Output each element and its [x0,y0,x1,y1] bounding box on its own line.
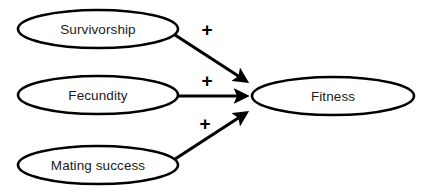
edge-sign-group: + + + [199,19,212,134]
path-diagram-canvas: + + + Survivorship Fecundity Mating succ… [0,0,430,192]
node-mating-success-label: Mating success [51,158,146,173]
node-fecundity-label: Fecundity [68,88,128,103]
node-fitness[interactable]: Fitness [252,77,414,115]
edge-sign-fecundity: + [201,70,212,91]
node-mating-success[interactable]: Mating success [18,146,178,184]
node-survivorship[interactable]: Survivorship [18,10,178,48]
node-survivorship-label: Survivorship [60,22,135,37]
edge-group [172,33,246,161]
path-diagram-svg: + + + Survivorship Fecundity Mating succ… [0,0,430,192]
edge-sign-survivorship: + [201,19,212,40]
node-fecundity[interactable]: Fecundity [18,76,178,114]
node-fitness-label: Fitness [311,89,355,104]
edge-sign-mating-success: + [199,113,210,134]
